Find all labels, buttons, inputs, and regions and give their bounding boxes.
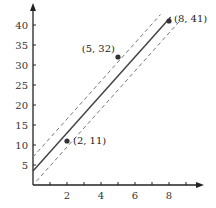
x-tick-label: 6 [132, 190, 138, 201]
y-tick-label: 30 [15, 60, 28, 71]
regression-line [33, 17, 171, 171]
scatter-chart: 2468510152025303540 (2, 11)(5, 32)(8, 41… [0, 0, 216, 208]
x-tick-label: 8 [166, 190, 172, 201]
data-point-label: (5, 32) [82, 43, 115, 54]
data-points: (2, 11)(5, 32)(8, 41) [64, 13, 207, 146]
data-point [166, 18, 171, 23]
data-point [64, 138, 69, 143]
x-tick-label: 2 [64, 190, 70, 201]
y-tick-label: 25 [15, 80, 28, 91]
y-tick-label: 20 [15, 100, 28, 111]
x-tick-label: 4 [98, 190, 104, 201]
data-point [115, 54, 120, 59]
data-point-label: (2, 11) [73, 135, 106, 146]
y-tick-label: 5 [22, 160, 28, 171]
x-axis-arrow-icon [196, 182, 204, 188]
y-tick-label: 15 [15, 120, 28, 131]
axes [30, 3, 204, 188]
fit-lines [33, 15, 181, 182]
data-point-label: (8, 41) [174, 13, 207, 24]
y-tick-label: 40 [15, 20, 28, 31]
y-axis-arrow-icon [30, 3, 36, 11]
y-tick-label: 10 [15, 140, 28, 151]
y-tick-label: 35 [15, 40, 28, 51]
